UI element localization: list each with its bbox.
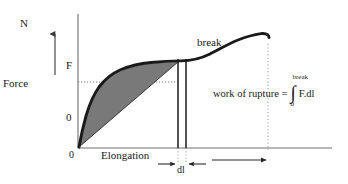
x-axis-title: Elongation: [101, 150, 149, 161]
y-axis-title: Force: [3, 78, 28, 89]
formula-lead-text: work of rupture =: [213, 88, 287, 99]
integrand-label: F.dl: [299, 88, 315, 99]
force-elongation-figure: N Force F 0 0 Elongation dl break work o…: [0, 0, 348, 184]
work-of-rupture-formula: work of rupture = break ∫ 0 F.dl: [213, 85, 314, 101]
integral-lower-limit: 0: [290, 100, 294, 108]
dl-label: dl: [177, 165, 185, 175]
integral-notation: break ∫ 0: [290, 85, 295, 101]
y-axis-tick-label-f: F: [66, 60, 72, 71]
y-axis-zero-label: 0: [66, 112, 72, 123]
origin-label: 0: [69, 150, 74, 160]
break-point-label: break: [197, 37, 221, 48]
integral-sign: ∫: [290, 85, 295, 101]
integral-upper-limit: break: [292, 73, 308, 81]
y-axis-unit-label: N: [20, 18, 28, 29]
